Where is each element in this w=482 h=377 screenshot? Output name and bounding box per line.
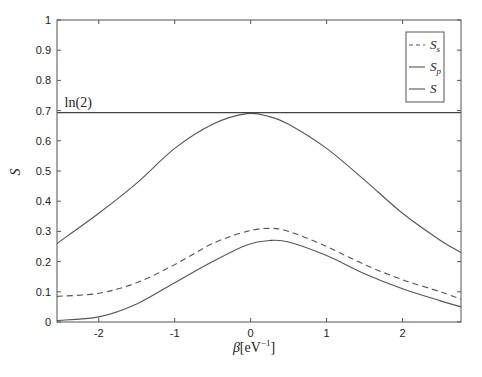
- y-tick-label: 0.2: [36, 256, 51, 268]
- y-tick-label: 0.8: [36, 74, 51, 86]
- y-tick-label: 0.6: [36, 135, 51, 147]
- series-layer: [57, 113, 461, 320]
- y-tick-label: 0.9: [36, 44, 51, 56]
- series-s-line: [57, 113, 461, 252]
- x-tick-label: 2: [399, 327, 405, 339]
- y-tick-label: 1: [45, 14, 51, 26]
- x-tick-label: -2: [94, 327, 104, 339]
- x-axis-label: β[eV−1]: [232, 338, 275, 355]
- y-tick-label: 0: [45, 316, 51, 328]
- y-axis-label: S: [8, 169, 23, 176]
- y-axis-ticks: 00.10.20.30.40.50.60.70.80.91: [36, 14, 461, 328]
- y-tick-label: 0.1: [36, 286, 51, 298]
- y-tick-label: 0.3: [36, 225, 51, 237]
- x-tick-label: -1: [170, 327, 180, 339]
- axes-frame: [57, 20, 461, 322]
- legend-label: S: [430, 81, 437, 96]
- ln2-annotation: ln(2): [65, 95, 93, 111]
- y-tick-label: 0.5: [36, 165, 51, 177]
- x-tick-label: 0: [248, 327, 254, 339]
- series-s-p-line: [57, 240, 461, 320]
- series-s-s-line: [57, 228, 461, 299]
- x-tick-label: 1: [324, 327, 330, 339]
- y-tick-label: 0.7: [36, 105, 51, 117]
- legend: SsSpS: [406, 32, 444, 102]
- chart: ln(2) -2-1012 00.10.20.30.40.50.60.70.80…: [0, 0, 482, 377]
- y-tick-label: 0.4: [36, 195, 51, 207]
